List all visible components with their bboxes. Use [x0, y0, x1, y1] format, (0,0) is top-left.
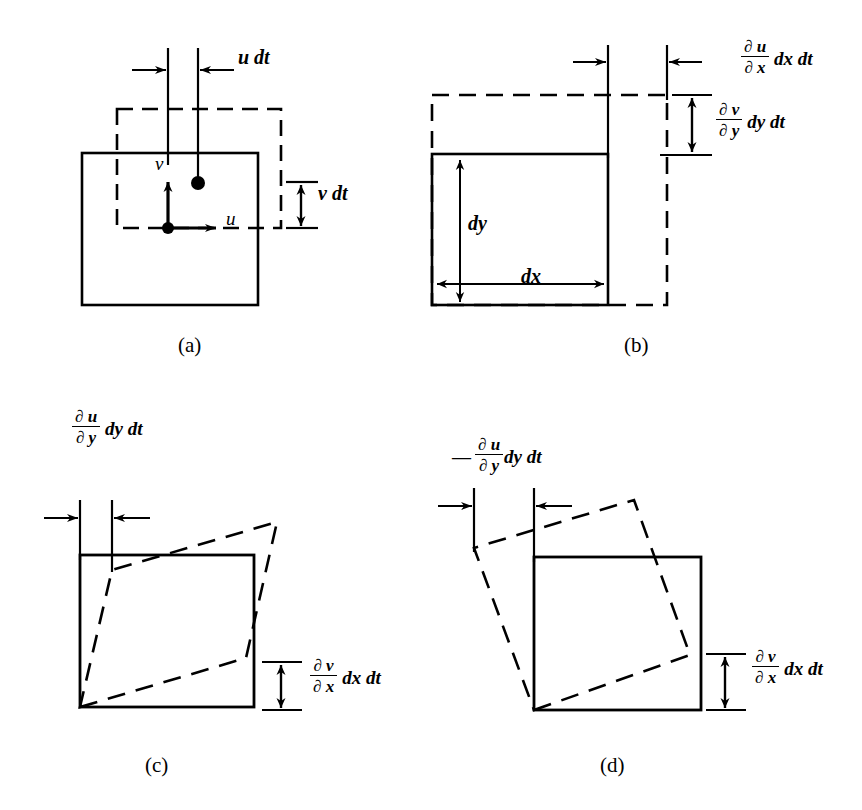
figure-root: u dt v dt u v (a) ∂ u ∂ x dx dt ∂ v ∂ y … — [0, 0, 862, 810]
panel-b-dx-dimension-label: dx — [521, 265, 541, 288]
fraction-denominator: ∂ y — [72, 427, 100, 447]
panel-c-artwork — [44, 500, 302, 710]
panel-a-displaced-dot — [191, 176, 205, 190]
fraction-tail: dx dt — [337, 668, 381, 687]
panel-a-caption: (a) — [178, 333, 201, 358]
panel-d-original-element — [534, 557, 701, 710]
fraction-numerator: ∂ v — [310, 656, 337, 676]
panel-a-v-dt-label: v dt — [318, 182, 347, 205]
panel-b-caption: (b) — [624, 333, 649, 358]
fraction-dv-dy: ∂ v ∂ y — [716, 101, 742, 141]
panel-a-u-dt-label: u dt — [238, 46, 270, 69]
panel-c-dudy-dydt-label: ∂ u ∂ y dy dt — [72, 408, 143, 448]
fraction-denominator: ∂ x — [310, 676, 337, 696]
panel-a-v-velocity-label: v — [155, 153, 163, 175]
fraction-dv-dx: ∂ v ∂ x — [310, 657, 337, 697]
panel-b-dudx-dxdt-label: ∂ u ∂ x dx dt — [741, 38, 813, 78]
panel-d-dvdx-dxdt-label: ∂ v ∂ x dx dt — [752, 648, 823, 688]
panel-b-artwork — [432, 45, 712, 305]
fraction-numerator: ∂ v — [752, 647, 779, 667]
fraction-tail: dy dt — [742, 112, 784, 131]
fraction-tail: dy dt — [100, 419, 142, 438]
fraction-numerator: ∂ u — [72, 407, 100, 427]
panel-a-origin-dot — [162, 222, 174, 234]
fraction-denominator: ∂ y — [716, 120, 742, 140]
panel-a-u-velocity-label: u — [226, 208, 236, 230]
fraction-du-dy: ∂ u ∂ y — [72, 408, 100, 448]
panel-b-dy-dimension-label: dy — [468, 212, 487, 235]
fraction-numerator: ∂ u — [741, 37, 769, 57]
panel-c-original-element — [80, 555, 254, 707]
fraction-du-dx: ∂ u ∂ x — [741, 38, 769, 78]
fraction-denominator: ∂ y — [475, 455, 503, 475]
panel-b-deformed-element — [432, 95, 667, 305]
fraction-numerator: ∂ u — [475, 435, 503, 455]
fraction-numerator: ∂ v — [716, 100, 742, 120]
panel-a-artwork — [82, 48, 318, 305]
minus-sign: — — [452, 447, 475, 466]
fraction-dv-dx: ∂ v ∂ x — [752, 648, 779, 688]
fraction-tail: dx dt — [769, 49, 813, 68]
panel-c-caption: (c) — [145, 753, 168, 778]
panel-d-artwork — [438, 488, 746, 710]
panel-b-original-element — [432, 154, 608, 305]
fraction-tail: dy dt — [503, 447, 541, 466]
panel-c-dvdx-dxdt-label: ∂ v ∂ x dx dt — [310, 657, 381, 697]
fraction-du-dy: ∂ u ∂ y — [475, 436, 503, 476]
panel-d-neg-dudy-dydt-label: — ∂ u ∂ y dy dt — [452, 436, 542, 476]
fraction-tail: dx dt — [779, 659, 823, 678]
panel-d-caption: (d) — [600, 753, 625, 778]
panel-d-rotated-element — [474, 500, 690, 710]
panel-c-deformed-element — [80, 522, 277, 707]
panel-b-dvdy-dydt-label: ∂ v ∂ y dy dt — [716, 101, 785, 141]
fraction-denominator: ∂ x — [752, 667, 779, 687]
fraction-denominator: ∂ x — [741, 57, 769, 77]
